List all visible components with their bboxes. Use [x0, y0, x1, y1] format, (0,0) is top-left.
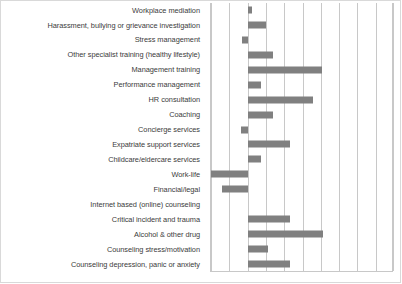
bar: [248, 7, 253, 14]
bar: [248, 215, 290, 222]
bar: [248, 141, 290, 148]
bar-row: [211, 137, 392, 152]
category-axis-labels: Workplace mediationHarassment, bullying …: [0, 3, 206, 272]
category-label: Internet based (online) counseling: [0, 197, 206, 212]
category-label: Work-life: [0, 167, 206, 182]
bar-row: [211, 63, 392, 78]
bar: [248, 67, 322, 74]
category-label: Concierge services: [0, 123, 206, 138]
bar-row: [211, 197, 392, 212]
bar-row: [211, 3, 392, 18]
bar-row: [211, 211, 392, 226]
bar: [248, 245, 268, 252]
bar-row: [211, 152, 392, 167]
category-label: Expatriate support services: [0, 137, 206, 152]
category-label: Counseling depression, panic or anxiety: [0, 257, 206, 272]
gridline: [393, 3, 394, 271]
bar-row: [211, 256, 392, 271]
bars-layer: [211, 3, 392, 271]
bar: [242, 37, 247, 44]
category-label: Critical incident and trauma: [0, 212, 206, 227]
category-label: Childcare/eldercare services: [0, 152, 206, 167]
category-label: Harassment, bullying or grievance invest…: [0, 18, 206, 33]
bar: [248, 156, 262, 163]
bar: [248, 111, 274, 118]
bar-row: [211, 122, 392, 137]
plot-area: [210, 3, 393, 272]
bar-row: [211, 92, 392, 107]
category-label: Counseling stress/motivation: [0, 242, 206, 257]
bar-row: [211, 167, 392, 182]
category-label: Alcohol & other drug: [0, 227, 206, 242]
category-label: Management training: [0, 63, 206, 78]
bar-row: [211, 77, 392, 92]
bar-row: [211, 48, 392, 63]
category-label: HR consultation: [0, 93, 206, 108]
bar: [248, 52, 274, 59]
bar-chart: Workplace mediationHarassment, bullying …: [0, 0, 402, 284]
category-label: Other specialist training (healthy lifes…: [0, 48, 206, 63]
category-label: Performance management: [0, 78, 206, 93]
bar-row: [211, 107, 392, 122]
bar: [222, 186, 248, 193]
bar: [211, 171, 248, 178]
bar: [248, 81, 262, 88]
bar: [248, 96, 313, 103]
category-label: Financial/legal: [0, 182, 206, 197]
bar-row: [211, 18, 392, 33]
bar-row: [211, 241, 392, 256]
bar-row: [211, 226, 392, 241]
bar-row: [211, 182, 392, 197]
bar: [248, 260, 290, 267]
bar: [248, 22, 266, 29]
category-label: Stress management: [0, 33, 206, 48]
category-label: Workplace mediation: [0, 3, 206, 18]
bar: [248, 230, 323, 237]
bar-row: [211, 33, 392, 48]
category-label: Coaching: [0, 108, 206, 123]
bar: [241, 126, 247, 133]
